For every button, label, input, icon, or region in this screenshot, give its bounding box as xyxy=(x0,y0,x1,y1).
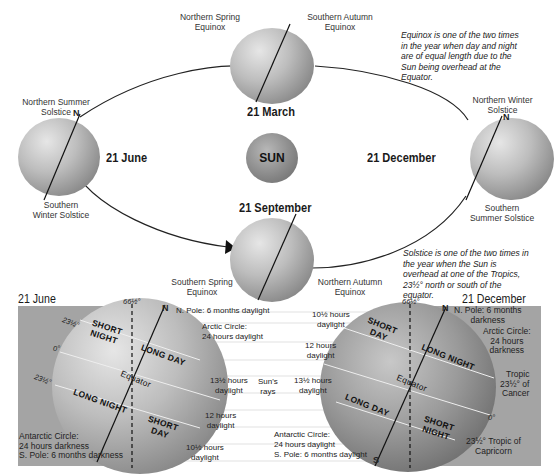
text-line: Sun's xyxy=(258,377,278,387)
npole-daylight: N. Pole: 6 months daylight xyxy=(176,306,269,316)
tropic-capricorn: 23½° Tropic of Capricorn xyxy=(466,437,521,456)
text-line: rays xyxy=(258,387,278,397)
arctic-daylight: Arctic Circle: 24 hours daylight xyxy=(202,322,263,341)
angle-right: 66½° xyxy=(402,297,420,306)
text-line: daylight xyxy=(312,320,350,330)
text-line: darkness xyxy=(483,346,531,356)
left-south-daylight: 10½ hours daylight xyxy=(186,443,224,462)
pole-n-right: N xyxy=(442,303,449,313)
text-line: daylight xyxy=(186,453,224,463)
text-line: 10½ hours xyxy=(312,310,350,320)
text-line: 10½ hours xyxy=(186,443,224,453)
npole-darkness: N. Pole: 6 months darkness xyxy=(454,306,522,325)
spole-daylight: S. Pole: 6 months daylight xyxy=(274,450,367,460)
lat-0-right: 0° xyxy=(488,413,495,422)
left-tropic-daylight: 13½ hours daylight xyxy=(210,376,248,395)
arctic-darkness: Arctic Circle: 24 hours darkness xyxy=(483,327,531,356)
text-line: 13½ hours xyxy=(210,376,248,386)
text-line: daylight xyxy=(205,421,236,431)
text-line: daylight xyxy=(210,386,248,396)
text-line: 24 hours daylight xyxy=(274,440,335,450)
text-line: Arctic Circle: xyxy=(202,322,263,332)
text-line: Cancer xyxy=(500,389,529,399)
pole-s-right: S xyxy=(373,455,379,465)
antarctic-daylight: Antarctic Circle: 24 hours daylight xyxy=(274,430,335,449)
pole-n-left: N xyxy=(162,303,169,313)
text-line: 24 hours daylight xyxy=(202,332,263,342)
text-line: S. Pole: 6 months darkness xyxy=(19,451,123,461)
sun-rays-label: Sun's rays xyxy=(258,377,278,396)
right-north-daylight: 10½ hours daylight xyxy=(312,310,350,329)
text-line: 13½ hours xyxy=(294,376,332,386)
text-line: darkness xyxy=(454,316,522,326)
text-line: Capricorn xyxy=(466,447,521,457)
text-line: 12 hours xyxy=(205,411,236,421)
tropic-cancer: Tropic 23½° of Cancer xyxy=(500,370,529,399)
text-line: Antarctic Circle: xyxy=(274,430,335,440)
left-equator-daylight: 12 hours daylight xyxy=(205,411,236,430)
angle-left: 66½° xyxy=(123,297,141,306)
right-equator-daylight: 12 hours daylight xyxy=(305,341,336,360)
text-line: daylight xyxy=(305,351,336,361)
text-line: daylight xyxy=(294,386,332,396)
antarctic-left: Antarctic Circle: 24 hours darkness S. P… xyxy=(19,432,123,461)
right-tropic-daylight: 13½ hours daylight xyxy=(294,376,332,395)
lat-0-left: 0° xyxy=(53,344,60,353)
text-line: 12 hours xyxy=(305,341,336,351)
